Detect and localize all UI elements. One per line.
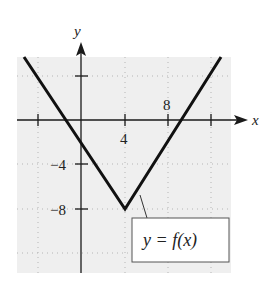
x-axis-label: x <box>251 112 259 128</box>
y-axis-label: y <box>72 23 81 39</box>
x-tick-label-8: 8 <box>163 97 171 113</box>
y-tick-label-neg4: −4 <box>50 157 66 173</box>
y-tick-label-neg8: −8 <box>50 202 66 218</box>
x-tick-label-4: 4 <box>120 131 128 147</box>
function-label: y = f(x) <box>141 230 197 251</box>
graph: x y 4 8 −4 −8 y = f(x) <box>0 0 265 283</box>
